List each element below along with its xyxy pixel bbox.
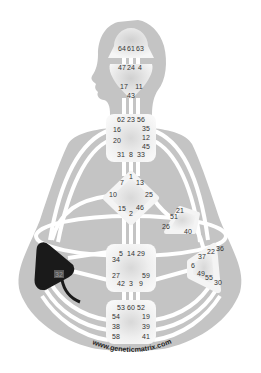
svg-text:46: 46 xyxy=(136,204,144,211)
bodygraph: 64 61 63 47 24 4 17 11 43 62 23 56 16 35… xyxy=(0,0,261,373)
svg-text:33: 33 xyxy=(137,151,145,158)
svg-text:9: 9 xyxy=(139,280,143,287)
svg-text:42: 42 xyxy=(117,280,125,287)
svg-text:53: 53 xyxy=(117,304,125,311)
svg-text:39: 39 xyxy=(142,323,150,330)
svg-text:20: 20 xyxy=(113,137,121,144)
svg-text:10: 10 xyxy=(109,191,117,198)
svg-text:8: 8 xyxy=(129,151,133,158)
svg-text:2: 2 xyxy=(129,210,133,217)
svg-text:59: 59 xyxy=(142,272,150,279)
center-throat: 62 23 56 16 35 20 12 45 31 8 33 xyxy=(106,114,156,162)
center-sacral: 5 14 29 34 27 59 42 3 9 xyxy=(106,244,156,292)
svg-text:56: 56 xyxy=(137,116,145,123)
svg-text:16: 16 xyxy=(113,126,121,133)
svg-text:47: 47 xyxy=(118,64,126,71)
svg-text:63: 63 xyxy=(136,45,144,52)
svg-text:37: 37 xyxy=(198,253,206,260)
svg-text:61: 61 xyxy=(127,45,135,52)
svg-text:43: 43 xyxy=(127,92,135,99)
svg-text:15: 15 xyxy=(118,205,126,212)
svg-text:32: 32 xyxy=(55,271,63,278)
svg-text:40: 40 xyxy=(184,228,192,235)
svg-text:23: 23 xyxy=(127,116,135,123)
svg-text:13: 13 xyxy=(136,179,144,186)
svg-text:64: 64 xyxy=(118,45,126,52)
svg-text:38: 38 xyxy=(112,323,120,330)
svg-text:11: 11 xyxy=(135,83,142,90)
svg-text:3: 3 xyxy=(129,280,133,287)
svg-text:34: 34 xyxy=(112,256,120,263)
svg-text:7: 7 xyxy=(120,179,124,186)
svg-text:19: 19 xyxy=(142,313,150,320)
svg-text:4: 4 xyxy=(138,64,142,71)
svg-text:22: 22 xyxy=(207,248,215,255)
svg-text:62: 62 xyxy=(117,116,125,123)
svg-text:45: 45 xyxy=(142,143,150,150)
center-root: 53 60 52 54 19 38 39 58 41 xyxy=(106,300,156,344)
svg-text:1: 1 xyxy=(129,173,133,180)
svg-text:25: 25 xyxy=(145,191,153,198)
svg-text:17: 17 xyxy=(120,83,128,90)
svg-text:36: 36 xyxy=(216,245,224,252)
svg-text:24: 24 xyxy=(127,64,135,71)
svg-text:12: 12 xyxy=(142,134,150,141)
svg-text:49: 49 xyxy=(197,270,205,277)
svg-text:31: 31 xyxy=(117,151,125,158)
svg-text:14: 14 xyxy=(127,250,135,257)
svg-text:30: 30 xyxy=(214,279,222,286)
svg-text:51: 51 xyxy=(170,213,178,220)
svg-text:41: 41 xyxy=(142,333,150,340)
svg-text:55: 55 xyxy=(205,274,213,281)
svg-text:58: 58 xyxy=(112,333,120,340)
svg-text:6: 6 xyxy=(191,262,195,269)
svg-text:27: 27 xyxy=(112,272,120,279)
svg-text:54: 54 xyxy=(112,313,120,320)
svg-text:29: 29 xyxy=(137,250,145,257)
svg-text:26: 26 xyxy=(162,223,170,230)
svg-text:35: 35 xyxy=(142,125,150,132)
svg-text:52: 52 xyxy=(137,304,145,311)
svg-text:60: 60 xyxy=(127,304,135,311)
